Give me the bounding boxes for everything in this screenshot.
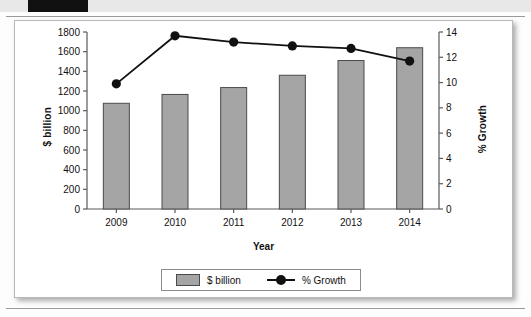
x-axis-title: Year: [15, 241, 512, 252]
y-tick-label-right: 10: [446, 77, 458, 88]
legend-item-bar[interactable]: $ billion: [176, 274, 241, 286]
legend-item-line[interactable]: % Growth: [267, 275, 346, 286]
chart-bar[interactable]: [221, 88, 247, 209]
screenshot-root: 0200400600800100012001400160018000246810…: [0, 0, 531, 317]
top-horizontal-rule: [6, 16, 525, 17]
y-tick-label-right: 12: [446, 52, 458, 63]
y-tick-label-left: 800: [63, 125, 80, 136]
growth-data-point[interactable]: [170, 31, 179, 40]
y-tick-label-right: 0: [446, 204, 452, 215]
y-tick-label-left: 1600: [58, 46, 81, 57]
growth-data-point[interactable]: [346, 44, 355, 53]
growth-data-point[interactable]: [405, 56, 414, 65]
y-tick-label-left: 0: [74, 204, 80, 215]
chart-bar[interactable]: [162, 94, 188, 209]
y-tick-label-left: 1800: [58, 27, 81, 38]
page-top-black-tab: [28, 0, 88, 12]
growth-data-point[interactable]: [112, 79, 121, 88]
chart-bar[interactable]: [279, 75, 305, 209]
chart-canvas: 0200400600800100012001400160018000246810…: [15, 21, 512, 297]
legend-line-dot-icon: [267, 275, 295, 285]
x-tick-label: 2014: [399, 217, 422, 228]
x-tick-label: 2009: [105, 217, 128, 228]
growth-line-path: [116, 36, 409, 84]
x-tick-label: 2013: [340, 217, 363, 228]
y-tick-label-left: 400: [63, 164, 80, 175]
y-tick-label-left: 600: [63, 145, 80, 156]
chart-card: 0200400600800100012001400160018000246810…: [14, 20, 513, 298]
y-tick-label-right: 4: [446, 153, 452, 164]
growth-data-point[interactable]: [288, 41, 297, 50]
y-axis-title-left: $ billion: [42, 107, 56, 147]
y-tick-label-right: 8: [446, 102, 452, 113]
y-tick-label-right: 2: [446, 178, 452, 189]
x-tick-label: 2011: [223, 217, 245, 228]
legend-swatch-icon: [176, 274, 200, 286]
growth-data-point[interactable]: [229, 38, 238, 47]
y-tick-label-left: 200: [63, 184, 80, 195]
y-tick-label-right: 6: [446, 128, 452, 139]
y-tick-label-left: 1200: [58, 86, 81, 97]
chart-bar[interactable]: [338, 61, 364, 209]
x-tick-label: 2012: [281, 217, 304, 228]
y-tick-label-left: 1000: [58, 105, 81, 116]
chart-bar[interactable]: [103, 103, 129, 209]
y-tick-label-left: 1400: [58, 66, 81, 77]
chart-bar[interactable]: [397, 48, 423, 209]
y-axis-title-right: % Growth: [477, 105, 491, 153]
y-tick-label-right: 14: [446, 27, 458, 38]
chart-legend: $ billion % Growth: [161, 269, 361, 291]
legend-label-line: % Growth: [302, 275, 346, 286]
legend-label-bar: $ billion: [207, 275, 241, 286]
x-tick-label: 2010: [164, 217, 187, 228]
chart-plot-area: 0200400600800100012001400160018000246810…: [15, 21, 512, 297]
bottom-horizontal-rule: [6, 308, 525, 309]
